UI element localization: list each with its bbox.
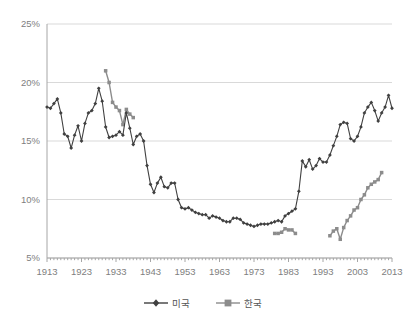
x-tick-label: 1973 [236, 266, 272, 277]
legend-item-korea[interactable]: 한국 [216, 296, 262, 310]
y-tick-label: 20% [6, 77, 40, 88]
x-tick-label: 1933 [98, 266, 134, 277]
x-tick-label: 1993 [305, 266, 341, 277]
y-tick-label: 15% [6, 135, 40, 146]
x-tick-label: 1963 [202, 266, 238, 277]
y-tick-label: 5% [6, 252, 40, 263]
legend-marker-diamond-icon [144, 298, 168, 308]
chart-container: 25%20%15%10%5% 1913192319331943195319631… [0, 0, 405, 321]
x-tick-label: 2003 [340, 266, 376, 277]
legend-item-usa[interactable]: 미국 [144, 296, 190, 310]
x-tick-label: 1913 [29, 266, 65, 277]
series-line-usa [45, 86, 394, 228]
x-tick-label: 1983 [271, 266, 307, 277]
x-tick-label: 2013 [374, 266, 405, 277]
y-tick-label: 10% [6, 194, 40, 205]
x-tick-label: 1923 [64, 266, 100, 277]
x-tick-label: 1953 [167, 266, 203, 277]
legend-marker-square-icon [216, 298, 240, 308]
chart-legend: 미국 한국 [0, 296, 405, 310]
y-tick-label: 25% [6, 18, 40, 29]
x-tick-label: 1943 [133, 266, 169, 277]
legend-label-usa: 미국 [172, 296, 190, 310]
gridlines-group [47, 24, 392, 258]
legend-label-korea: 한국 [244, 296, 262, 310]
x-tick-marks-group [47, 258, 392, 262]
